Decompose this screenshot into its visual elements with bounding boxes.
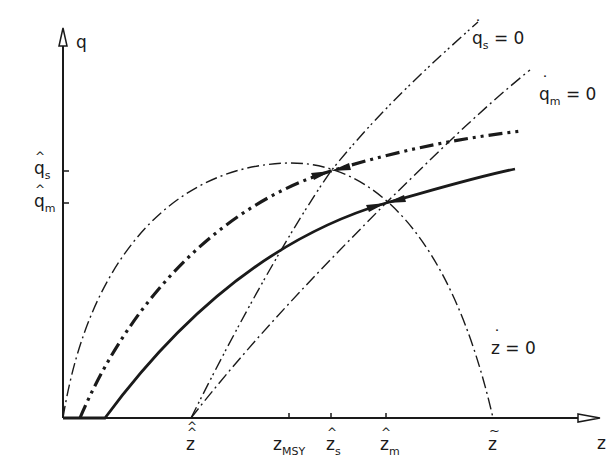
x-tick-label-zmsy: zMSY	[273, 436, 305, 453]
zm-hat-symbol: z	[380, 436, 389, 453]
curve-z-dot-zero	[63, 163, 493, 418]
qs-dot-symbol: q	[472, 28, 483, 48]
zmsy-symbol: z	[273, 434, 282, 454]
label-qm-dot-zero: qm = 0	[539, 86, 596, 103]
x-axis-arrow-icon	[578, 414, 600, 422]
z-tilde-symbol: z	[488, 436, 497, 453]
qm-dot-subscript: m	[550, 95, 561, 108]
label-qs-dot-zero: qs = 0	[472, 30, 524, 47]
qs-hat-subscript: s	[45, 169, 51, 182]
qm-hat-symbol: q	[34, 193, 45, 210]
qs-dot-equation: = 0	[489, 28, 525, 48]
curve-trajectory-s	[80, 131, 522, 418]
zs-hat-subscript: s	[335, 445, 341, 458]
zs-hat-symbol: z	[326, 436, 335, 453]
x-tick-label-z-tilde: z	[488, 436, 497, 453]
x-tick-label-zs-hat: zs	[326, 436, 341, 453]
x-axis-label: z	[597, 435, 606, 452]
z-double-hat-symbol: z	[186, 436, 195, 453]
z-dot-symbol: z	[491, 338, 500, 358]
label-z-dot-zero: z = 0	[491, 340, 536, 357]
phase-diagram	[0, 0, 612, 475]
qm-dot-equation: = 0	[561, 84, 597, 104]
curve-trajectory-m	[63, 169, 515, 418]
arrow-icon-s-right	[331, 163, 351, 171]
x-tick-label-zm-hat: zm	[380, 436, 400, 453]
qs-hat-symbol: q	[34, 160, 45, 177]
qs-dot-subscript: s	[483, 39, 489, 52]
y-tick-label-qs-hat: qs	[34, 160, 51, 177]
y-axis-arrow-icon	[59, 28, 67, 46]
arrow-icon-m-right	[386, 195, 406, 203]
x-axis-label-text: z	[597, 433, 606, 453]
z-dot-equation: = 0	[500, 338, 536, 358]
qm-hat-subscript: m	[45, 202, 56, 215]
zm-hat-subscript: m	[389, 445, 400, 458]
x-tick-label-z-double-hat: z	[186, 436, 195, 453]
qm-dot-symbol: q	[539, 84, 550, 104]
zmsy-subscript: MSY	[282, 445, 305, 458]
arrow-icon-m-left	[366, 203, 386, 212]
y-axis-label-text: q	[76, 32, 87, 52]
y-axis-label: q	[76, 34, 87, 51]
y-tick-label-qm-hat: qm	[34, 193, 56, 210]
